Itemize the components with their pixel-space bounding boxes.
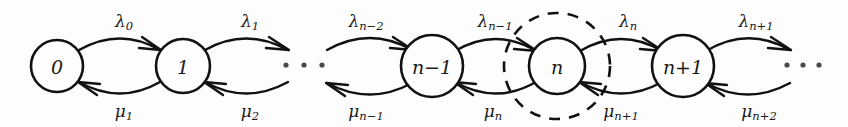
rate-label-mu-n-minus-1: μn−1	[348, 101, 383, 123]
backward-arrowhead-next-to-1	[204, 82, 226, 95]
transition-arcs-nm1-n	[454, 38, 537, 95]
state-label-0: 0	[51, 56, 63, 78]
mu-symbol: μ	[603, 101, 614, 121]
ellipsis-dot	[800, 62, 805, 67]
forward-arrowhead-np1-to-next	[768, 37, 791, 50]
rate-label-lambda-1: λ1	[240, 11, 259, 33]
rate-label-lambda-0: λ0	[114, 11, 133, 33]
mu-symbol: μ	[348, 101, 359, 121]
forward-arrowhead-1-to-next	[266, 37, 289, 50]
lambda-symbol: λ	[240, 11, 252, 31]
lambda-subscript: n	[630, 19, 637, 33]
lambda-symbol: λ	[618, 11, 630, 31]
lambda-symbol: λ	[114, 11, 126, 31]
forward-arrowhead-0-to-1	[139, 37, 161, 50]
markov-chain-diagram: 0 1 n−1 n n+1 λ0 λ1 λn−2 λn−1 λn λn	[0, 0, 848, 127]
lambda-subscript: n−1	[488, 19, 512, 33]
rate-label-lambda-n-plus-1: λn+1	[737, 11, 773, 33]
lambda-subscript: n−2	[359, 19, 383, 33]
lambda-subscript: n+1	[749, 19, 773, 33]
ellipsis-dot	[319, 62, 324, 67]
lambda-symbol: λ	[347, 11, 359, 31]
mu-subscript: 2	[251, 109, 259, 123]
mu-subscript: n+1	[614, 109, 638, 123]
birth-rate-labels: λ0 λ1 λn−2 λn−1 λn λn+1	[114, 11, 774, 33]
mu-symbol: μ	[115, 101, 126, 121]
ellipsis-right	[784, 62, 821, 67]
rate-label-mu-n-plus-2: μn+2	[741, 101, 776, 123]
transition-arcs-n-np1	[579, 38, 663, 95]
mu-symbol: μ	[741, 101, 752, 121]
state-label-n-plus-1: n+1	[663, 56, 703, 78]
transition-arcs-0-1	[78, 37, 161, 95]
backward-arrowhead-np1-to-n	[579, 82, 601, 95]
rate-label-mu-n-plus-1: μn+1	[603, 101, 638, 123]
ellipsis-dot	[816, 62, 821, 67]
ellipsis-dot	[784, 62, 789, 67]
mu-subscript: n	[495, 109, 502, 123]
mu-subscript: 1	[126, 109, 133, 123]
mu-symbol: μ	[241, 101, 252, 121]
state-label-1: 1	[177, 56, 189, 78]
lambda-symbol: λ	[476, 11, 488, 31]
lambda-subscript: 1	[252, 19, 259, 33]
ellipsis-dot	[301, 62, 306, 67]
state-label-n-minus-1: n−1	[412, 56, 452, 78]
lambda-subscript: 0	[126, 19, 133, 33]
state-label-n: n	[551, 56, 563, 78]
transition-arcs-1-ellipsis	[204, 37, 289, 95]
rate-label-lambda-n-minus-1: λn−1	[476, 11, 512, 33]
backward-arrowhead-1-to-0	[78, 82, 100, 95]
transition-arcs-np1-ellipsis	[705, 37, 791, 96]
rate-label-lambda-n: λn	[618, 11, 637, 33]
mu-symbol: μ	[484, 101, 495, 121]
mu-subscript: n−1	[359, 109, 383, 123]
rate-label-lambda-n-minus-2: λn−2	[347, 11, 383, 33]
state-node-labels: 0 1 n−1 n n+1	[51, 56, 703, 78]
state-nodes	[31, 35, 714, 97]
rate-label-mu-2: μ2	[241, 101, 259, 123]
death-rate-labels: μ1 μ2 μn−1 μn μn+1 μn+2	[115, 101, 777, 123]
rate-label-mu-n: μn	[484, 101, 502, 123]
ellipsis-left	[283, 62, 324, 67]
ellipsis-dot	[283, 62, 288, 67]
lambda-symbol: λ	[737, 11, 749, 31]
diagram-canvas: 0 1 n−1 n n+1 λ0 λ1 λn−2 λn−1 λn λn	[0, 0, 848, 127]
mu-subscript: n+2	[752, 109, 776, 123]
rate-label-mu-1: μ1	[115, 101, 133, 123]
